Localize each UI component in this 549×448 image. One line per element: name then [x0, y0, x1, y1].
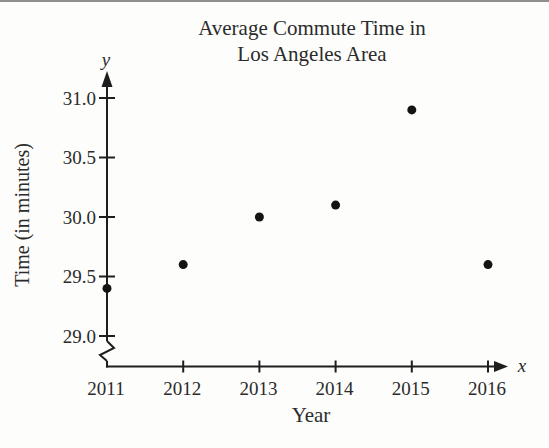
y-tick-label: 30.5 [63, 147, 96, 168]
data-point [484, 260, 493, 269]
data-point [179, 260, 188, 269]
scatter-plot: Average Commute Time in Los Angeles Area… [0, 0, 549, 448]
x-tick-label: 2011 [87, 378, 124, 399]
data-point [103, 284, 112, 293]
y-axis-arrow [102, 71, 113, 87]
x-tick-label: 2016 [468, 378, 506, 399]
x-tick-label: 2012 [163, 378, 201, 399]
data-point [331, 201, 340, 210]
y-tick-label: 29.0 [63, 326, 96, 347]
x-tick-label: 2013 [239, 378, 277, 399]
x-tick-label: 2015 [392, 378, 430, 399]
data-point [407, 105, 416, 114]
y-axis-break [100, 341, 114, 361]
plot-area: 29.029.530.030.531.020112012201320142015… [0, 0, 549, 448]
y-tick-label: 31.0 [63, 88, 96, 109]
data-point [255, 213, 264, 222]
y-tick-label: 29.5 [63, 266, 96, 287]
x-axis-arrow [494, 361, 508, 372]
y-tick-label: 30.0 [63, 207, 96, 228]
x-tick-label: 2014 [316, 378, 355, 399]
